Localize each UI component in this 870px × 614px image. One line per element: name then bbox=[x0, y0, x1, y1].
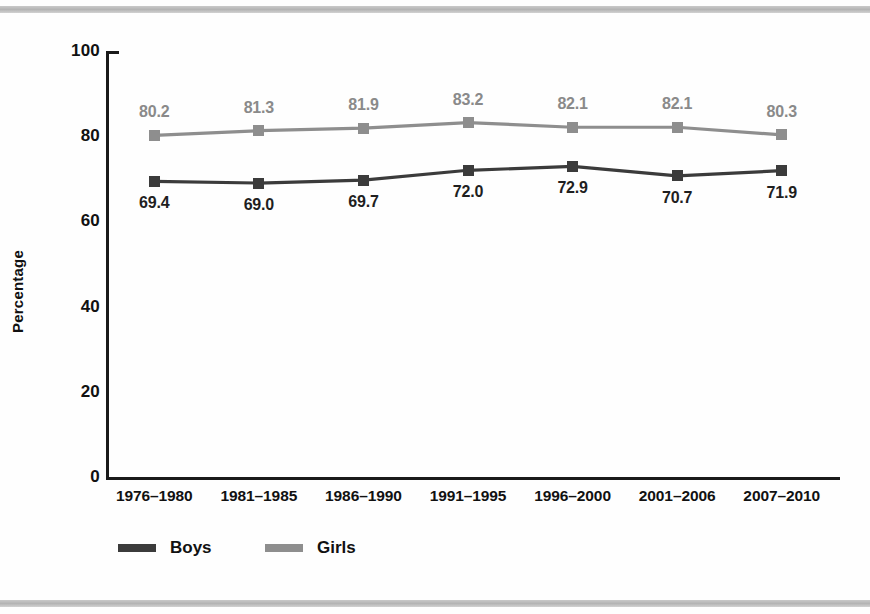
data-point-marker bbox=[358, 123, 369, 134]
data-point-value-label: 83.2 bbox=[423, 91, 513, 109]
data-point-marker bbox=[149, 176, 160, 187]
data-point-marker bbox=[358, 175, 369, 186]
x-axis-tick-label: 1976–1980 bbox=[94, 487, 214, 505]
y-axis-title: Percentage bbox=[9, 212, 26, 372]
data-point-marker bbox=[463, 117, 474, 128]
legend-label: Boys bbox=[170, 538, 212, 558]
data-point-value-label: 69.4 bbox=[109, 194, 199, 212]
chart-figure: 020406080100 Percentage 1976–19801981–19… bbox=[0, 0, 870, 614]
top-divider-rule bbox=[0, 6, 870, 13]
legend-swatch-icon bbox=[118, 544, 156, 552]
data-point-value-label: 71.9 bbox=[737, 184, 827, 202]
x-axis-tick-label: 1996–2000 bbox=[513, 487, 633, 505]
y-axis-top-tick bbox=[108, 51, 119, 54]
data-point-marker bbox=[253, 178, 264, 189]
y-axis-tick-label: 60 bbox=[40, 211, 100, 231]
y-axis-tick-labels: 020406080100 bbox=[28, 0, 100, 614]
legend-item-girls[interactable]: Girls bbox=[265, 538, 356, 558]
data-point-value-label: 72.9 bbox=[528, 179, 618, 197]
x-axis-tick-label: 1981–1985 bbox=[199, 487, 319, 505]
data-point-value-label: 69.0 bbox=[214, 196, 304, 214]
data-point-marker bbox=[463, 165, 474, 176]
y-axis-tick-label: 20 bbox=[40, 382, 100, 402]
y-axis-tick-label: 80 bbox=[40, 126, 100, 146]
data-point-value-label: 81.9 bbox=[318, 96, 408, 114]
x-axis-tick-label: 1991–1995 bbox=[408, 487, 528, 505]
y-axis-tick-label: 100 bbox=[40, 41, 100, 61]
data-point-marker bbox=[776, 165, 787, 176]
data-point-marker bbox=[672, 170, 683, 181]
data-point-value-label: 81.3 bbox=[214, 99, 304, 117]
bottom-divider-rule bbox=[0, 600, 870, 607]
data-point-marker bbox=[567, 122, 578, 133]
data-point-value-label: 82.1 bbox=[632, 95, 722, 113]
data-point-marker bbox=[672, 122, 683, 133]
y-axis-tick-label: 40 bbox=[40, 297, 100, 317]
x-axis-tick-label: 2007–2010 bbox=[722, 487, 842, 505]
x-axis-line bbox=[106, 477, 840, 480]
x-axis-tick-label: 1986–1990 bbox=[303, 487, 423, 505]
data-point-marker bbox=[149, 130, 160, 141]
legend-item-boys[interactable]: Boys bbox=[118, 538, 212, 558]
y-axis-tick-label: 0 bbox=[40, 467, 100, 487]
x-axis-tick-label: 2001–2006 bbox=[617, 487, 737, 505]
data-point-marker bbox=[567, 161, 578, 172]
data-point-value-label: 70.7 bbox=[632, 189, 722, 207]
data-point-marker bbox=[253, 125, 264, 136]
data-point-value-label: 80.3 bbox=[737, 103, 827, 121]
data-point-value-label: 69.7 bbox=[318, 193, 408, 211]
data-point-value-label: 72.0 bbox=[423, 183, 513, 201]
legend-label: Girls bbox=[317, 538, 356, 558]
data-point-marker bbox=[776, 129, 787, 140]
legend-swatch-icon bbox=[265, 544, 303, 552]
data-point-value-label: 82.1 bbox=[528, 95, 618, 113]
data-point-value-label: 80.2 bbox=[109, 103, 199, 121]
